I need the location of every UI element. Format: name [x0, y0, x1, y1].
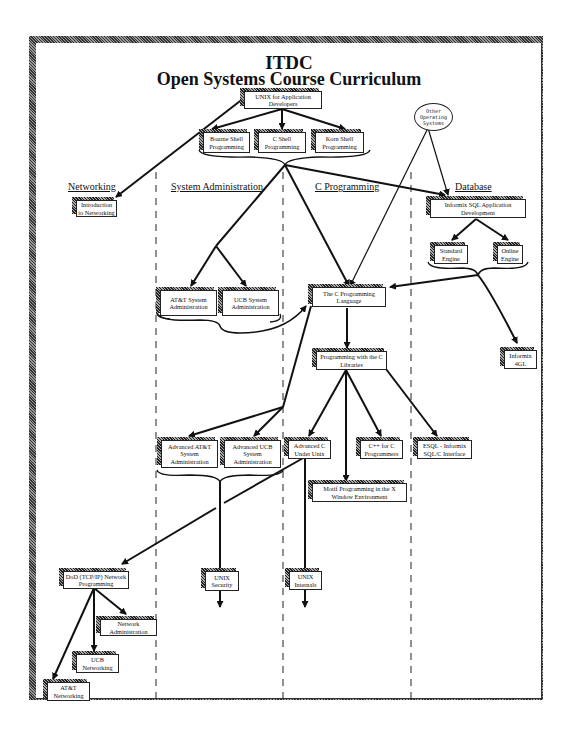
course-informix-sql[interactable]: Informix SQL Application Development	[430, 199, 526, 218]
course-esql[interactable]: ESQL - Informix SQL/C Interface	[417, 440, 472, 459]
course-intro-networking[interactable]: Introduction to Networking	[76, 200, 117, 217]
course-att-sysadmin[interactable]: AT&T System Administration	[160, 290, 217, 316]
course-unix-internals[interactable]: UNIX Internals	[289, 571, 322, 590]
course-ucb-networking[interactable]: UCB Networking	[76, 654, 119, 673]
course-c-shell[interactable]: C Shell Programming	[258, 132, 306, 153]
course-advanced-ucb-sysadmin[interactable]: Advanced UCB System Administration	[224, 440, 281, 468]
course-informix-4gl[interactable]: Informix 4GL	[504, 350, 537, 369]
course-advanced-att-sysadmin[interactable]: Advanced AT&T System Administration	[161, 440, 218, 468]
curriculum-diagram: ITDC Open Systems Course Curriculum Netw…	[0, 0, 568, 730]
course-standard-engine[interactable]: Standard Engine	[434, 245, 468, 264]
course-network-admin[interactable]: Network Administration	[100, 619, 157, 636]
connector-lines	[0, 0, 568, 730]
course-korn-shell[interactable]: Korn Shell Programming	[315, 132, 364, 153]
course-advanced-c[interactable]: Advanced C Under Unix	[288, 440, 331, 459]
course-dod-network[interactable]: DoD (TCP/IP) Network Programming	[63, 571, 129, 589]
course-unix-security[interactable]: UNIX Security	[205, 571, 239, 591]
other-operating-systems: Other Operating Systems	[414, 103, 453, 131]
course-bourne-shell[interactable]: Bourne Shell Programming	[203, 132, 250, 153]
course-cpp[interactable]: C++ for C Programmers	[360, 440, 403, 459]
course-motif[interactable]: Motif Programming in the X Window Enviro…	[312, 483, 407, 502]
course-ucb-sysadmin[interactable]: UCB System Administration	[222, 290, 279, 316]
course-att-networking[interactable]: AT&T Networking	[47, 682, 90, 701]
course-c-libraries[interactable]: Programming with the C Libraries	[316, 351, 387, 370]
lane-dividers	[156, 172, 411, 700]
course-unix-app-dev[interactable]: UNIX for Application Developers	[244, 91, 322, 109]
course-online-engine[interactable]: Online Engine	[497, 245, 523, 264]
course-c-programming-language[interactable]: The C Programming Language	[312, 287, 386, 307]
